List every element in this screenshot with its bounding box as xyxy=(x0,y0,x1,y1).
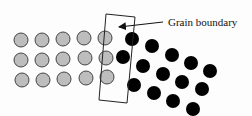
atom-grain-b xyxy=(136,59,150,73)
atom-grain-a xyxy=(100,70,114,84)
grain-boundary-diagram: Grain boundary xyxy=(0,0,252,116)
atom-grain-a xyxy=(14,53,28,67)
atom-grain-a xyxy=(56,32,70,46)
atom-grain-a xyxy=(35,33,49,47)
atom-grain-b xyxy=(186,102,200,116)
atom-grain-b xyxy=(195,82,209,96)
atom-grain-a xyxy=(99,51,113,65)
grain-b-atoms xyxy=(116,32,217,116)
atom-grain-b xyxy=(203,64,217,78)
atom-grain-a xyxy=(78,51,92,65)
atom-grain-b xyxy=(184,56,198,70)
atom-grain-b xyxy=(166,94,180,108)
grain-boundary-label: Grain boundary xyxy=(168,16,238,28)
atom-grain-b xyxy=(145,39,159,53)
atom-grain-a xyxy=(35,53,49,67)
atom-grain-b xyxy=(147,86,161,100)
atom-grain-b xyxy=(116,50,130,64)
atom-grain-b xyxy=(175,75,189,89)
atom-grain-a xyxy=(79,71,93,85)
atom-grain-b xyxy=(165,48,179,62)
atom-grain-a xyxy=(56,52,70,66)
atom-grain-a xyxy=(98,31,112,45)
grain-a-atoms xyxy=(14,31,114,87)
diagram-canvas: Grain boundary xyxy=(0,0,252,116)
arrow-icon xyxy=(119,22,163,27)
atom-grain-a xyxy=(14,33,28,47)
atom-grain-a xyxy=(15,73,29,87)
atom-grain-b xyxy=(156,67,170,81)
atom-grain-a xyxy=(57,72,71,86)
atom-grain-a xyxy=(36,73,50,87)
atom-grain-a xyxy=(77,31,91,45)
